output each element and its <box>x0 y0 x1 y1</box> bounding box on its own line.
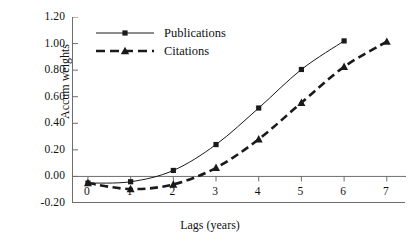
triangle-marker <box>212 164 220 171</box>
x-axis-tick-label: 5 <box>290 185 310 197</box>
square-marker <box>299 67 304 72</box>
legend-key <box>96 26 154 40</box>
x-axis-tick-label: 0 <box>77 185 97 197</box>
square-marker <box>128 179 133 184</box>
series-publications <box>85 38 346 185</box>
x-axis-tick-label: 1 <box>120 185 140 197</box>
legend-item: Publications <box>96 24 226 42</box>
square-marker <box>342 38 347 43</box>
square-marker <box>122 30 127 35</box>
x-axis-tick-label: 4 <box>248 185 268 197</box>
square-marker <box>213 142 218 147</box>
legend-item: Citations <box>96 42 226 60</box>
legend-label: Publications <box>164 26 226 41</box>
x-axis-title: Lags (years) <box>0 218 420 233</box>
x-axis-tick-label: 2 <box>162 185 182 197</box>
series-line <box>88 42 387 189</box>
chart-legend: PublicationsCitations <box>96 24 226 60</box>
square-marker <box>256 105 261 110</box>
series-citations <box>84 37 391 192</box>
y-axis-title-wrap: Accum weights <box>12 0 52 245</box>
x-axis-tick-label: 7 <box>376 185 396 197</box>
x-axis-tick-label: 6 <box>333 185 353 197</box>
chart-figure: 1.201.000.800.600.400.200.00-0.20 Accum … <box>0 0 420 245</box>
y-axis-title: Accum weights <box>58 17 73 147</box>
square-marker <box>171 168 176 173</box>
legend-key <box>96 44 154 58</box>
series-line <box>88 41 344 183</box>
triangle-marker <box>340 63 348 70</box>
legend-label: Citations <box>164 44 209 59</box>
x-axis-tick-label: 3 <box>205 185 225 197</box>
triangle-marker <box>383 37 391 44</box>
